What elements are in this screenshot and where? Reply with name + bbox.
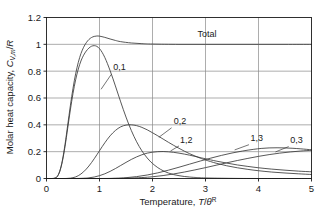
- x-axis-title: Temperature, T/θR: [140, 196, 217, 207]
- x-tick-label: 5: [309, 183, 314, 194]
- x-tick-label: 2: [150, 183, 155, 194]
- chart-figure: 00.20.40.60.811.2 012345 Total0,10,21,21…: [0, 0, 328, 209]
- y-tick-label: 1.2: [28, 12, 41, 23]
- curve-label-1-3: 1,3: [251, 133, 264, 143]
- molar-heat-capacity-chart: 00.20.40.60.811.2 012345 Total0,10,21,21…: [0, 0, 328, 209]
- chart-background: [0, 0, 328, 209]
- y-tick-label: 0.6: [28, 92, 41, 103]
- x-tick-label: 0: [44, 183, 49, 194]
- curve-label-total: Total: [198, 29, 217, 39]
- x-tick-label: 1: [97, 183, 102, 194]
- y-tick-label: 0.8: [28, 66, 41, 77]
- y-tick-label: 1: [36, 39, 41, 50]
- x-tick-label: 3: [203, 183, 208, 194]
- y-tick-label: 0.2: [28, 146, 41, 157]
- y-tick-label: 0.4: [28, 119, 41, 130]
- x-tick-label: 4: [256, 183, 261, 194]
- y-tick-label: 0: [36, 173, 41, 184]
- curve-label-0-2: 0,2: [174, 116, 187, 126]
- curve-label-0-1: 0,1: [113, 62, 126, 72]
- curve-label-0-3: 0,3: [290, 135, 303, 145]
- curve-label-1-2: 1,2: [180, 135, 193, 145]
